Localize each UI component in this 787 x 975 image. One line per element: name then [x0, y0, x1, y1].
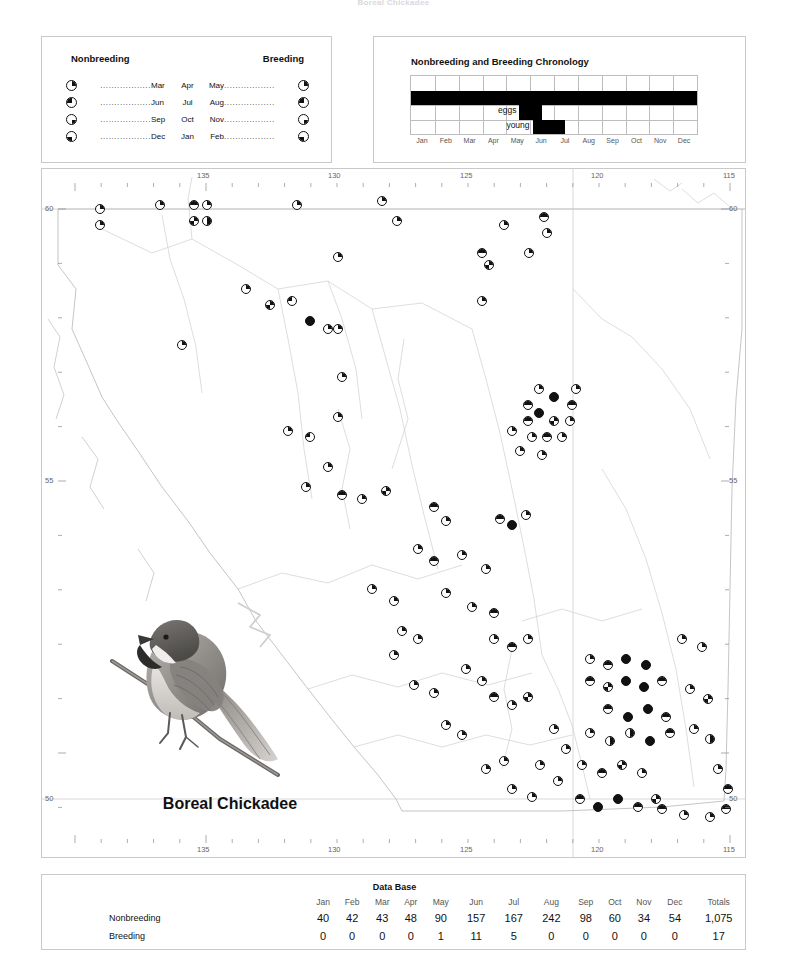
data-base-panel: Data Base JanFebMarAprMayJunJulAugSepOct…: [41, 874, 746, 950]
pie-upper-right-icon: [298, 80, 309, 91]
column-header-oct: Oct: [601, 895, 628, 909]
table-cell: 11: [457, 927, 495, 945]
legend-rows: .................. Mar Apr May .........…: [42, 77, 333, 145]
table-cell: 40: [309, 909, 337, 927]
chronology-month-may: May: [505, 137, 529, 144]
table-cell: 0: [659, 927, 690, 945]
pie-lower-right-icon: [66, 114, 77, 125]
row-label-nonbreeding: Nonbreeding: [42, 909, 309, 927]
chronology-bar-nonbreeding: [411, 91, 697, 106]
table-cell: 42: [337, 909, 367, 927]
chronology-month-feb: Feb: [434, 137, 458, 144]
chronology-panel: Nonbreeding and Breeding Chronology JanF…: [373, 36, 746, 163]
column-header-aug: Aug: [533, 895, 571, 909]
table-cell: 0: [337, 927, 367, 945]
chronology-month-oct: Oct: [624, 137, 648, 144]
map-canvas[interactable]: Boreal Chickadee 13513513013012512512012…: [42, 169, 745, 857]
longitude-label-top-120: 120: [591, 171, 604, 180]
chronology-month-axis: JanFebMarAprMayJunJulAugSepOctNovDec: [410, 137, 698, 149]
table-cell: 167: [495, 909, 533, 927]
column-header-jan: Jan: [309, 895, 337, 909]
table-cell: 43: [367, 909, 397, 927]
longitude-label-top-115: 115: [723, 171, 735, 180]
table-cell: 242: [533, 909, 571, 927]
chronology-bar-eggs: [519, 105, 542, 120]
column-header-may: May: [424, 895, 457, 909]
dot-leader: ..................: [224, 132, 298, 141]
table-cell: 90: [424, 909, 457, 927]
chronology-month-jun: Jun: [529, 137, 553, 144]
legend-month-jun: Jun: [151, 98, 176, 107]
legend-row: .................. Jun Jul Aug .........…: [42, 94, 333, 111]
longitude-label-bottom-125: 125: [460, 845, 473, 854]
legend-month-oct: Oct: [176, 115, 199, 124]
legend-row: .................. Sep Oct Nov .........…: [42, 111, 333, 128]
chronology-month-dec: Dec: [672, 137, 696, 144]
legend-heading-nonbreeding: Nonbreeding: [71, 53, 130, 64]
dot-leader: ..................: [224, 115, 298, 124]
latitude-label-left-60: 60: [45, 204, 53, 213]
legend-month-feb: Feb: [199, 132, 224, 141]
table-cell: 0: [628, 927, 659, 945]
longitude-label-top-135: 135: [197, 171, 210, 180]
legend-month-aug: Aug: [199, 98, 224, 107]
longitude-label-top-125: 125: [460, 171, 473, 180]
data-base-table: JanFebMarAprMayJunJulAugSepOctNovDecTota…: [42, 895, 747, 945]
pie-upper-left-icon: [298, 97, 309, 108]
table-cell: 17: [690, 927, 747, 945]
column-header-mar: Mar: [367, 895, 397, 909]
latitude-label-right-55: 55: [729, 476, 737, 485]
latitude-label-left-50: 50: [45, 794, 53, 803]
dot-leader: ..................: [77, 132, 151, 141]
distribution-map[interactable]: Boreal Chickadee 13513513013012512512012…: [41, 168, 746, 858]
table-cell: 60: [601, 909, 628, 927]
table-cell: 0: [367, 927, 397, 945]
table-cell: 0: [601, 927, 628, 945]
chronology-bar-young: [533, 120, 565, 135]
column-header-nov: Nov: [628, 895, 659, 909]
pie-upper-right-icon: [66, 80, 77, 91]
table-cell: 1: [424, 927, 457, 945]
legend-month-jan: Jan: [176, 132, 199, 141]
species-account-page: Boreal Chickadee Nonbreeding Breeding ..…: [0, 0, 787, 975]
legend-row: .................. Dec Jan Feb .........…: [42, 128, 333, 145]
column-header-dec: Dec: [659, 895, 690, 909]
longitude-label-bottom-115: 115: [723, 845, 735, 854]
table-row: Nonbreeding4042434890157167242986034541,…: [42, 909, 747, 927]
longitude-label-bottom-130: 130: [328, 845, 341, 854]
table-cell: 0: [397, 927, 424, 945]
table-cell: 157: [457, 909, 495, 927]
table-cell: 34: [628, 909, 659, 927]
table-cell: 0: [309, 927, 337, 945]
pie-lower-right-icon: [298, 114, 309, 125]
chronology-month-sep: Sep: [601, 137, 625, 144]
legend-month-apr: Apr: [176, 81, 199, 90]
table-cell: 48: [397, 909, 424, 927]
longitude-label-bottom-135: 135: [197, 845, 210, 854]
data-base-title: Data Base: [42, 882, 747, 892]
table-cell: 98: [570, 909, 601, 927]
dot-leader: ..................: [77, 115, 151, 124]
dot-leader: ..................: [224, 98, 298, 107]
chronology-month-jan: Jan: [410, 137, 434, 144]
chronology-month-mar: Mar: [458, 137, 482, 144]
row-label-breeding: Breeding: [42, 927, 309, 945]
pie-lower-left-icon: [298, 131, 309, 142]
legend-month-jul: Jul: [176, 98, 199, 107]
table-cell: 1,075: [690, 909, 747, 927]
table-cell: 0: [570, 927, 601, 945]
legend-heading-breeding: Breeding: [263, 53, 304, 64]
legend-month-mar: Mar: [151, 81, 176, 90]
legend-month-sep: Sep: [151, 115, 176, 124]
column-header-sep: Sep: [570, 895, 601, 909]
dot-leader: ..................: [77, 98, 151, 107]
table-cell: 0: [533, 927, 571, 945]
chronology-month-aug: Aug: [577, 137, 601, 144]
chronology-label-eggs: eggs: [410, 105, 516, 115]
latitude-label-right-60: 60: [729, 204, 737, 213]
map-axis-labels: 1351351301301251251201201151156060555550…: [42, 169, 745, 857]
column-header-feb: Feb: [337, 895, 367, 909]
chronology-month-jul: Jul: [553, 137, 577, 144]
legend-month-may: May: [199, 81, 224, 90]
running-head: Boreal Chickadee: [0, 0, 787, 7]
